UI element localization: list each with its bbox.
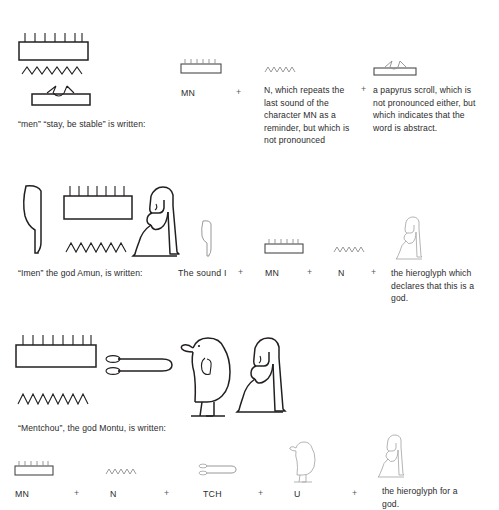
imen-breakdown-item-i xyxy=(198,218,218,260)
imen-breakdown-operator-3: + xyxy=(371,267,376,277)
imen-breakdown-operator-1: + xyxy=(238,267,243,277)
water-ripple-n-glyph xyxy=(66,243,126,252)
imen-word-composition xyxy=(16,182,196,267)
men-breakdown-operator-2: + xyxy=(361,84,366,94)
mentchou-caption: “Mentchou”, the god Montu, is written: xyxy=(18,422,278,435)
seated-god-glyph xyxy=(396,216,432,262)
men-breakdown-item-n xyxy=(264,62,304,76)
water-ripple-n-glyph xyxy=(105,464,145,478)
quail-chick-u-glyph xyxy=(288,440,320,482)
men-senet-game-board-glyph xyxy=(16,335,96,367)
seated-god-glyph xyxy=(378,434,414,480)
section-mentchou: “Mentchou”, the god Montu, is written: M… xyxy=(0,330,499,510)
water-ripple-n-glyph xyxy=(22,67,82,74)
seated-god-glyph xyxy=(237,338,285,412)
quail-chick-u-glyph xyxy=(181,338,230,416)
imen-breakdown-operator-2: + xyxy=(307,267,312,277)
men-breakdown-label-mn: MN xyxy=(181,87,195,99)
mentchou-breakdown-item-n xyxy=(105,464,145,478)
imen-breakdown-item-god xyxy=(396,216,432,262)
hieroglyph-explainer-page: “men” “stay, be stable” is written: MN +… xyxy=(0,0,499,510)
men-breakdown-item-mn xyxy=(180,56,224,78)
imen-breakdown-label-n: N xyxy=(338,267,345,279)
section-men: “men” “stay, be stable” is written: MN +… xyxy=(0,0,499,170)
mentchou-breakdown-operator-4: + xyxy=(352,488,357,498)
mentchou-breakdown-label-n: N xyxy=(110,488,117,500)
section-imen: “Imen” the god Amun, is written: The sou… xyxy=(0,180,499,315)
men-senet-game-board-glyph xyxy=(14,458,58,480)
imen-breakdown-description-god: the hieroglyph which declares that this … xyxy=(391,267,486,305)
imen-breakdown-item-mn xyxy=(264,236,308,258)
reed-leaf-i-glyph xyxy=(198,218,218,260)
tethering-rope-tch-glyph xyxy=(106,356,172,375)
mentchou-breakdown-description-god: the hieroglyph for a god. xyxy=(382,485,477,510)
mentchou-breakdown-operator-2: + xyxy=(164,488,169,498)
water-ripple-n-glyph xyxy=(18,394,88,404)
men-breakdown-description-n: N, which repeats the last sound of the c… xyxy=(264,84,358,147)
men-senet-game-board-glyph xyxy=(19,33,88,60)
men-word-composition xyxy=(18,30,108,110)
mentchou-breakdown-item-tch xyxy=(198,461,244,479)
men-breakdown-item-scroll xyxy=(373,56,423,80)
papyrus-scroll-glyph xyxy=(32,86,90,105)
mentchou-breakdown-item-u xyxy=(288,440,320,482)
men-senet-game-board-glyph xyxy=(64,186,132,219)
imen-breakdown-label-mn: MN xyxy=(265,267,279,279)
tethering-rope-tch-glyph xyxy=(198,461,244,479)
mentchou-breakdown-item-mn xyxy=(14,458,58,480)
men-breakdown-description-scroll: a papyrus scroll, which is not pronounce… xyxy=(373,84,478,134)
mentchou-breakdown-item-god xyxy=(378,434,414,480)
reed-leaf-i-glyph xyxy=(24,186,41,253)
imen-breakdown-item-n xyxy=(333,242,373,256)
seated-god-glyph xyxy=(133,187,179,256)
mentchou-word-composition xyxy=(14,332,304,424)
mentchou-breakdown-operator-1: + xyxy=(74,488,79,498)
mentchou-breakdown-label-mn: MN xyxy=(15,488,29,500)
papyrus-scroll-glyph xyxy=(373,56,423,80)
men-senet-game-board-glyph xyxy=(180,56,224,78)
mentchou-breakdown-label-u: U xyxy=(294,488,301,500)
water-ripple-n-glyph xyxy=(264,62,304,76)
men-caption: “men” “stay, be stable” is written: xyxy=(18,118,183,131)
imen-breakdown-label-i: The sound I xyxy=(178,267,227,279)
men-breakdown-operator-1: + xyxy=(236,87,241,97)
mentchou-breakdown-operator-3: + xyxy=(258,488,263,498)
water-ripple-n-glyph xyxy=(333,242,373,256)
men-senet-game-board-glyph xyxy=(264,236,308,258)
mentchou-breakdown-label-tch: TCH xyxy=(203,488,222,500)
